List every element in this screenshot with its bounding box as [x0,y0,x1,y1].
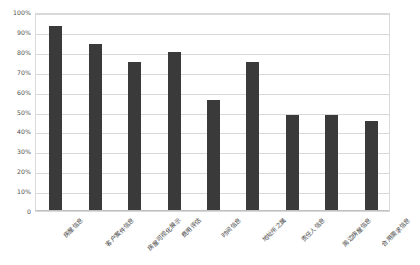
x-axis-tick-label: 合用需求信息 [381,217,412,248]
x-axis-tick-label: 房屋信息 [62,217,84,239]
bar [49,26,62,211]
x-axis: 房屋信息客户案件信息房屋可视化展示费用评估时间信息地址所之属责任人信息周边房屋信… [35,213,390,265]
y-axis-tick-label: 20% [17,169,31,175]
x-axis-tick-label: 时间信息 [220,217,242,239]
y-axis-tick-label: 60% [17,89,31,95]
bar [246,62,259,211]
bar-chart: 100%90%80%70%60%50%40%30%20%10%0 房屋信息客户案… [0,0,420,265]
x-axis-tick-label: 房屋可视化展示 [146,217,181,252]
bar [168,52,181,211]
bar [325,115,338,211]
y-axis-tick-label: 90% [17,30,31,36]
y-axis-tick-label: 10% [17,189,31,195]
x-axis-tick-label: 周边房屋信息 [342,217,373,248]
y-axis-tick-label: 80% [17,50,31,56]
y-axis-tick-label: 100% [13,10,31,16]
bar [89,44,102,211]
y-axis-tick-label: 70% [17,70,31,76]
y-axis-tick-label: 0 [27,209,31,215]
y-axis-tick-label: 50% [17,109,31,115]
x-axis-tick-label: 客户案件信息 [105,217,136,248]
plot-area [35,13,390,212]
bar [128,62,141,211]
bar [207,100,220,211]
x-axis-tick-label: 地址所之属 [261,217,287,243]
bar [286,115,299,211]
y-axis-tick-label: 30% [17,149,31,155]
y-axis: 100%90%80%70%60%50%40%30%20%10%0 [0,0,35,265]
y-axis-tick-label: 40% [17,129,31,135]
x-axis-tick-label: 费用评估 [180,217,202,239]
x-axis-tick-label: 责任人信息 [300,217,326,243]
bars-group [36,14,389,211]
x-axis-baseline [36,210,389,211]
bar [365,121,378,211]
